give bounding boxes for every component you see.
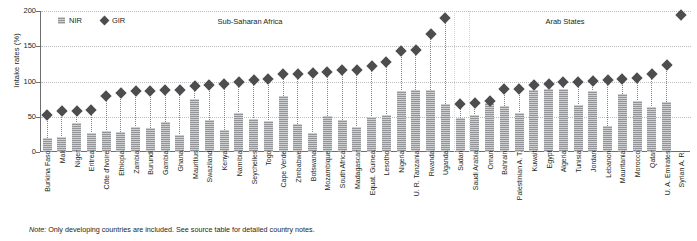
region-separator <box>454 11 455 152</box>
nir-bar <box>293 124 302 152</box>
chart-column <box>498 11 510 152</box>
category-label: Jordan <box>587 153 599 217</box>
gir-marker <box>336 65 347 76</box>
category-label: Eritrea <box>85 153 97 217</box>
gir-marker <box>130 85 141 96</box>
nir-bar <box>500 106 509 152</box>
nir-bar <box>146 128 155 152</box>
chart-column <box>631 11 643 152</box>
chart-column <box>100 11 112 152</box>
category-label-text: Tunisia <box>575 151 582 215</box>
nir-bar <box>559 89 568 152</box>
chart-column <box>189 11 201 152</box>
gir-marker <box>617 73 628 84</box>
y-tick-mark-50 <box>36 117 40 118</box>
gir-marker <box>543 78 554 89</box>
category-label-text: Seychelles <box>250 151 257 215</box>
y-axis-title: Intake rates (%) <box>12 1 21 121</box>
chart-column <box>307 11 319 152</box>
nir-bar <box>234 113 243 152</box>
nir-bar <box>323 116 332 152</box>
category-label: Kenya <box>218 153 230 217</box>
category-label-text: Palestinian A. T. <box>516 151 523 215</box>
chart-column <box>454 11 466 152</box>
category-label: Gambia <box>159 153 171 217</box>
category-label: Cape Verde <box>277 153 289 217</box>
category-label: Swaziland <box>203 153 215 217</box>
nir-bar <box>647 107 656 152</box>
gir-marker <box>41 109 52 120</box>
nir-bar <box>87 133 96 152</box>
gir-marker <box>366 60 377 71</box>
nir-bar <box>116 132 125 152</box>
chart-column <box>395 11 407 152</box>
chart-column <box>130 11 142 152</box>
category-label: U. A. Emirates <box>661 153 673 217</box>
category-label-text: Algeria <box>560 151 567 215</box>
chart-column <box>115 11 127 152</box>
chart-column <box>602 11 614 152</box>
category-label: Kuwait <box>528 153 540 217</box>
plot-area <box>41 11 690 152</box>
gir-marker <box>572 76 583 87</box>
nir-bar <box>662 102 671 152</box>
nir-bar <box>102 131 111 152</box>
category-label-text: Madagascar <box>353 151 360 215</box>
y-tick-label-50: 50 <box>0 113 36 121</box>
gir-marker <box>263 74 274 85</box>
category-label-text: Swaziland <box>206 151 213 215</box>
category-label-text: Togo <box>265 151 272 215</box>
chart-column <box>410 11 422 152</box>
nir-bar <box>529 90 538 152</box>
category-label-text: Mozambique <box>324 151 331 215</box>
nir-bar <box>603 126 612 152</box>
category-label-text: Ghana <box>176 151 183 215</box>
category-label: U. R. Tanzania <box>410 153 422 217</box>
chart-column <box>587 11 599 152</box>
category-label-text: Morocco <box>634 151 641 215</box>
chart-column <box>233 11 245 152</box>
category-label: Lesotho <box>380 153 392 217</box>
category-label: Burkina Faso <box>41 153 53 217</box>
nir-bar <box>367 117 376 152</box>
chart-column <box>572 11 584 152</box>
category-label: Morocco <box>631 153 643 217</box>
category-label: Nigeria <box>395 153 407 217</box>
nir-bar <box>441 104 450 152</box>
nir-bar <box>588 91 597 152</box>
gir-marker <box>513 84 524 95</box>
gir-marker <box>307 67 318 78</box>
nir-bar <box>397 91 406 152</box>
bar-swatch-icon <box>58 17 65 24</box>
nir-bar <box>175 135 184 152</box>
chart-column <box>292 11 304 152</box>
chart-column <box>528 11 540 152</box>
chart-column <box>144 11 156 152</box>
chart-column <box>366 11 378 152</box>
gir-marker <box>661 59 672 70</box>
category-label: Mauritius <box>189 153 201 217</box>
category-label: Zambia <box>130 153 142 217</box>
chart-column <box>71 11 83 152</box>
region-title-arab-states: Arab States <box>440 17 690 26</box>
gir-marker <box>86 104 97 115</box>
gir-marker <box>277 69 288 80</box>
category-label: Bahrain <box>498 153 510 217</box>
category-label: Palestinian A. T. <box>513 153 525 217</box>
category-label: Saudi Arabia <box>469 153 481 217</box>
gir-marker <box>351 64 362 75</box>
chart-figure: Intake rates (%) 050100150200 NIR GIR Su… <box>0 0 697 241</box>
nir-bar <box>279 96 288 152</box>
chart-column <box>484 11 496 152</box>
chart-column <box>513 11 525 152</box>
gir-marker <box>56 105 67 116</box>
gir-marker <box>395 46 406 57</box>
chart-column <box>262 11 274 152</box>
nir-bar <box>633 101 642 152</box>
category-label-text: South Africa <box>339 151 346 215</box>
gir-marker <box>218 79 229 90</box>
category-label: Egypt <box>543 153 555 217</box>
chart-legend: NIR GIR <box>58 16 125 25</box>
gir-marker <box>204 79 215 90</box>
category-label-text: Ethiopia <box>117 151 124 215</box>
